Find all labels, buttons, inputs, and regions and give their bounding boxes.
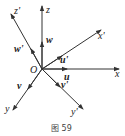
- vector-u-prime-label: u': [60, 54, 69, 65]
- y-prime-axis-label: y': [70, 106, 78, 117]
- vector-w-label: w: [46, 34, 53, 45]
- x-axis-label: x: [114, 68, 120, 79]
- vector-w-prime-label: w': [14, 43, 24, 54]
- z-prime-axis-label: z': [13, 5, 21, 16]
- coordinate-diagram: z x y z' x' y' u w v u' w' v' O 图 59: [0, 0, 125, 136]
- vector-v-label: v: [17, 80, 22, 91]
- vector-u-prime: [42, 56, 62, 69]
- vector-v-prime: [42, 69, 60, 87]
- origin-label: O: [30, 64, 37, 75]
- figure-caption: 图 59: [51, 124, 72, 133]
- z-axis-label: z: [45, 4, 50, 15]
- y-axis-label: y: [4, 103, 10, 114]
- x-prime-axis-label: x': [97, 30, 105, 41]
- vector-v-prime-label: v': [61, 79, 68, 90]
